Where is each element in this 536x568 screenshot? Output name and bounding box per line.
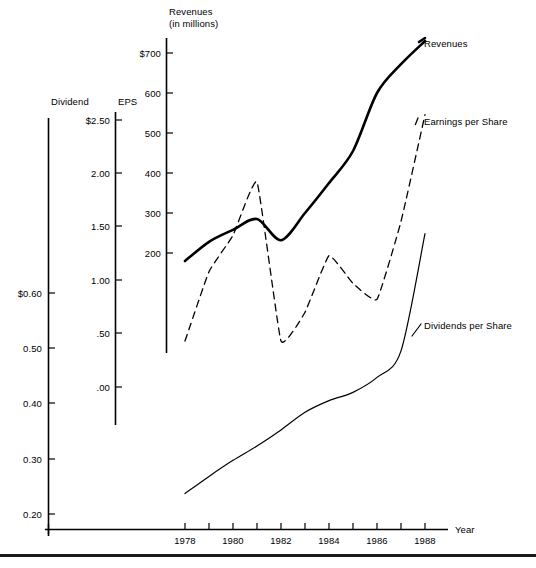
eps-tick-label: 2.00 bbox=[62, 168, 110, 179]
leader-dividends bbox=[412, 324, 421, 336]
dividend-tick-label: 0.50 bbox=[0, 343, 42, 354]
dividend-tick-label: $0.60 bbox=[0, 288, 42, 299]
year-label: 1980 bbox=[213, 535, 253, 546]
year-label: 1982 bbox=[261, 535, 301, 546]
series-label-dividends: Dividends per Share bbox=[424, 320, 512, 331]
leader-eps bbox=[414, 118, 418, 128]
chart-figure: Dividend EPS Revenues (in millions) Year… bbox=[0, 0, 536, 568]
x-axis-title: Year bbox=[455, 524, 475, 536]
revenues-axis-title-line1: Revenues bbox=[169, 6, 213, 18]
series-line-earnings-per-share bbox=[185, 115, 425, 343]
dividend-tick-label: 0.20 bbox=[0, 509, 42, 520]
dividend-axis-title: Dividend bbox=[51, 96, 89, 108]
dividend-axis-ticks bbox=[49, 293, 56, 514]
series-label-revenues: Revenues bbox=[424, 38, 468, 49]
revenues-tick-label: $700 bbox=[116, 48, 161, 59]
dividend-tick-label: 0.40 bbox=[0, 398, 42, 409]
revenues-tick-label: 600 bbox=[116, 88, 161, 99]
eps-tick-label: .00 bbox=[62, 382, 110, 393]
year-label: 1978 bbox=[165, 535, 205, 546]
series-label-eps: Earnings per Share bbox=[424, 116, 508, 127]
series-line-revenues bbox=[185, 41, 425, 261]
revenues-tick-label: 300 bbox=[116, 208, 161, 219]
year-label: 1986 bbox=[357, 535, 397, 546]
series-line-dividends-per-share bbox=[185, 234, 425, 494]
dividend-tick-label: 0.30 bbox=[0, 454, 42, 465]
revenues-tick-label: 200 bbox=[116, 248, 161, 259]
revenues-axis-ticks bbox=[167, 53, 174, 253]
eps-tick-label: 1.00 bbox=[62, 275, 110, 286]
year-label: 1984 bbox=[309, 535, 349, 546]
bottom-rule bbox=[0, 554, 536, 557]
eps-tick-label: 1.50 bbox=[62, 221, 110, 232]
year-label: 1988 bbox=[405, 535, 445, 546]
revenues-tick-label: 400 bbox=[116, 168, 161, 179]
eps-tick-label: $2.50 bbox=[62, 115, 110, 126]
revenues-tick-label: 500 bbox=[116, 128, 161, 139]
revenues-axis-title-line2: (in millions) bbox=[169, 18, 218, 30]
eps-tick-label: .50 bbox=[62, 328, 110, 339]
x-axis-ticks bbox=[185, 523, 425, 530]
data-series-layer bbox=[185, 38, 425, 494]
